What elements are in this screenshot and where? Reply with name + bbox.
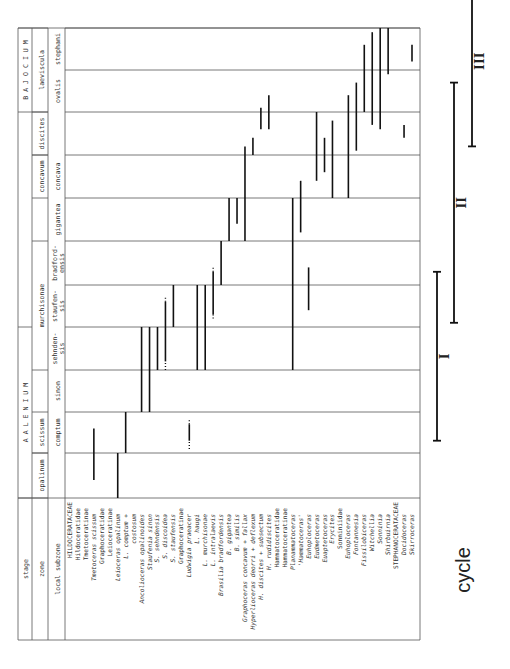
taxon-label: S. discoidea xyxy=(161,514,168,559)
taxon-label: S. sehndensis xyxy=(153,514,160,563)
taxon-label: L. intralaevis xyxy=(209,514,216,566)
taxon-label: H. rudidiscites xyxy=(265,514,272,571)
taxon-label: Fissilobiceras xyxy=(360,514,367,566)
cycle-label: II xyxy=(453,197,469,209)
subzone-name: concava xyxy=(54,163,62,191)
taxon-label: Sonninia xyxy=(376,514,383,544)
taxon-label: STEPHANOCERATACEAE xyxy=(392,502,399,569)
taxon-label: Witchellia xyxy=(368,514,375,552)
taxon-label: Graphoceratidae xyxy=(98,508,106,564)
taxon-label: Tmetoceras scissum xyxy=(90,514,97,581)
taxon-label: Ancolioceras opalinoides xyxy=(138,514,146,605)
taxon-label: Eudmetoceras xyxy=(313,514,320,559)
taxon-label: Euhoploceras xyxy=(344,514,352,559)
taxon-label: Shirbuirnia xyxy=(384,514,391,555)
taxon-label: B. gigantea xyxy=(225,514,233,555)
stage-name: B A J O C I U M xyxy=(22,40,30,100)
zone-name: opalinum xyxy=(38,460,46,492)
taxon-label: L. haugi xyxy=(193,514,201,544)
taxon-label: Hildoceratidae xyxy=(74,508,81,560)
cycle-title: cycle xyxy=(452,547,474,593)
taxon-label: Euhoploceras xyxy=(305,514,313,559)
taxon-label: L. murchisonae xyxy=(201,514,208,566)
taxon-label: H. discites + subsectum xyxy=(257,514,264,601)
subzone-name: sinon xyxy=(54,381,62,401)
taxon-label: Ludwigia praeacer xyxy=(185,514,193,578)
taxon-label: S. staufensis xyxy=(169,514,176,563)
taxon-label: 'Hammatoceras' xyxy=(297,514,304,566)
taxon-label: Skirroceras xyxy=(408,514,415,555)
header-stage-label: stage xyxy=(22,559,30,579)
subzone-name: sis xyxy=(58,300,66,312)
taxon-label: Graphoceratinae xyxy=(177,508,185,564)
taxon-label: Tmetoceratinae xyxy=(82,508,89,560)
taxon-label: Hammatoceratidae xyxy=(273,508,280,568)
taxon-label: Fontannesia xyxy=(352,514,359,555)
zone-name: concavum xyxy=(38,161,46,193)
taxon-label: Graphoceras concavum + fallax xyxy=(241,514,249,622)
subzone-name: comptum xyxy=(54,419,62,447)
zone-name: laeviscula xyxy=(38,50,46,90)
taxon-label: Brasilia bradfordensis xyxy=(217,514,224,596)
taxon-label: Leioceratinae xyxy=(106,508,113,557)
cycle-label: I xyxy=(436,353,452,359)
taxon-label: Hammatoceratinae xyxy=(281,508,288,568)
header-subzone-label: local subzone xyxy=(54,543,62,595)
cycle-label: III xyxy=(471,52,487,70)
zone-name: discites xyxy=(38,118,46,150)
subzone-name: gigantea xyxy=(54,204,62,236)
subzone-name: sis xyxy=(58,343,66,355)
taxon-label: HILDOCERATACEAE xyxy=(66,502,73,558)
taxon-label: costosum xyxy=(130,514,137,544)
zone-name: scissum xyxy=(38,419,46,447)
stage-name: A A L E N I U M xyxy=(22,383,30,443)
taxon-label: Leioceras opalinum xyxy=(114,514,122,581)
range-chart: stagezonelocal subzoneA A L E N I U MB A… xyxy=(0,0,510,669)
header-zone-label: zone xyxy=(38,561,46,577)
taxon-label: Sonniniidae xyxy=(336,508,343,549)
taxon-label: B. similis xyxy=(233,514,240,552)
taxon-label: Euaptetoceras xyxy=(321,514,329,563)
taxon-label: Hyperlioceras deorri + deflexum xyxy=(249,514,257,631)
subzone-name: ovalis xyxy=(54,79,62,103)
taxon-label: Docidoceras xyxy=(400,514,407,556)
taxon-label: Erycites xyxy=(328,514,336,544)
subzone-name: ensis xyxy=(58,253,66,273)
taxon-label: Planammatoceras xyxy=(289,514,296,570)
taxon-label: L. comptum + xyxy=(122,514,130,559)
taxon-label: Staufenia sinon xyxy=(146,514,153,570)
subzone-name: stephani xyxy=(54,33,62,65)
zone-name: murchisonae xyxy=(38,284,46,328)
